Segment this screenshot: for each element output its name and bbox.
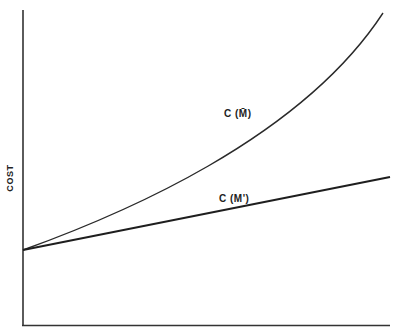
curve-label-c-m-bar: C (M̄) — [224, 108, 252, 119]
cost-chart: COST C (M̄) C (M') — [0, 0, 398, 334]
curve-label-c-m-prime: C (M') — [219, 193, 249, 204]
y-axis-label: COST — [5, 164, 15, 191]
line-c-m-prime — [23, 177, 390, 250]
